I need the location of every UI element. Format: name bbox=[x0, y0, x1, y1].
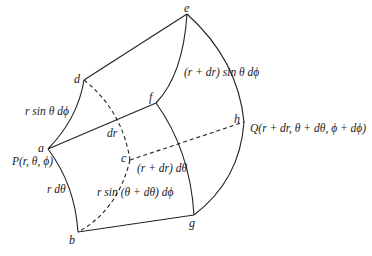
point-label-d: d bbox=[74, 72, 81, 86]
label-ab: r dθ bbox=[47, 183, 66, 195]
edge-c-h-hidden bbox=[130, 122, 244, 160]
label-ef: (r + dr) sin θ dϕ bbox=[184, 66, 259, 79]
edge-g-h bbox=[194, 122, 244, 215]
edge-f-e bbox=[156, 14, 187, 103]
label-bc: r sin (θ + dθ) dϕ bbox=[97, 186, 173, 199]
edge-b-g bbox=[78, 215, 194, 232]
label-fg: (r + dr) dθ bbox=[137, 162, 187, 175]
label-ad: r sin θ dϕ bbox=[25, 105, 69, 118]
spherical-volume-element-diagram: a b c d e f g h P(r, θ, ϕ) Q(r + dr, θ +… bbox=[0, 0, 372, 256]
point-label-e: e bbox=[184, 1, 190, 15]
point-label-h: h bbox=[234, 112, 240, 126]
edge-f-g bbox=[156, 103, 194, 215]
point-label-f: f bbox=[149, 90, 154, 104]
point-label-a: a bbox=[38, 141, 44, 155]
point-label-g: g bbox=[189, 216, 195, 230]
edge-d-c-hidden bbox=[84, 80, 130, 160]
label-Q: Q(r + dr, θ + dθ, ϕ + dϕ) bbox=[250, 122, 366, 135]
point-label-b: b bbox=[69, 233, 75, 247]
label-dr: dr bbox=[107, 127, 118, 139]
point-label-c: c bbox=[121, 151, 127, 165]
edge-d-e bbox=[84, 14, 187, 80]
label-P: P(r, θ, ϕ) bbox=[11, 155, 53, 168]
